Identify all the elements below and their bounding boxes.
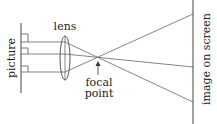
object-marker-middle (21, 48, 28, 54)
lens-projection-diagram: lens focal point picture image on screen (0, 0, 217, 124)
focal-label-line2: point (85, 87, 114, 100)
ray-middle-refracted (65, 54, 193, 67)
object-marker-top (21, 34, 28, 42)
diagram-canvas: lens focal point picture image on screen (0, 0, 217, 124)
ray-bottom-refracted (65, 14, 193, 72)
screen-label: image on screen (200, 13, 213, 105)
picture-label: picture (5, 38, 18, 78)
picture-objects (21, 34, 28, 72)
lens-label: lens (54, 20, 77, 33)
object-marker-bottom (21, 66, 28, 72)
focal-arrow-icon (96, 61, 101, 66)
